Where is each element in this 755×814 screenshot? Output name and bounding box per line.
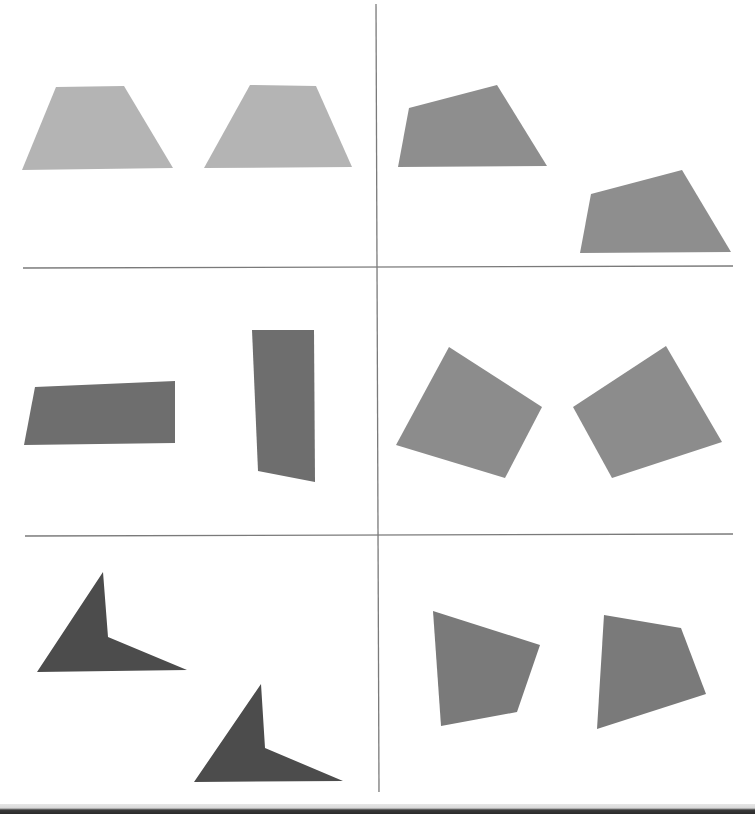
shape-row3-left-2 <box>194 684 343 782</box>
vertical-divider <box>376 4 379 792</box>
panel-row1-left <box>22 85 352 170</box>
shape-row1-left-1 <box>22 86 173 170</box>
shape-row2-left-2 <box>252 330 315 482</box>
panel-row2-left <box>24 330 315 482</box>
shape-row1-right-1 <box>398 85 547 167</box>
horizontal-divider-2 <box>25 534 733 536</box>
shape-comparison-figure <box>0 0 755 814</box>
shape-row1-left-2 <box>204 85 352 168</box>
shape-row3-left-1 <box>37 572 187 672</box>
panel-row1-right <box>398 85 731 253</box>
shape-row2-right-2 <box>573 346 722 478</box>
horizontal-divider-1 <box>23 266 733 268</box>
bottom-edge-band <box>0 804 755 814</box>
panel-row3-right <box>433 611 706 729</box>
shape-row3-right-2 <box>597 615 706 729</box>
panel-row2-right <box>396 346 722 478</box>
shape-row1-right-2 <box>580 170 731 253</box>
shape-row2-right-1 <box>396 347 542 478</box>
shape-row2-left-1 <box>24 381 175 445</box>
shape-row3-right-1 <box>433 611 540 726</box>
panel-row3-left <box>37 572 343 782</box>
